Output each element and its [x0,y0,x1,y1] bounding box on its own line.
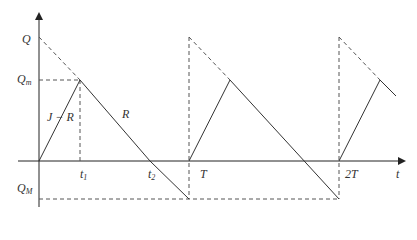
cycle2-rise [189,80,230,161]
qm-label: Qm [17,73,31,87]
q-label: Q [22,33,31,45]
fall-rate-label: R [122,108,129,120]
t2-label: t2 [148,168,155,182]
cycle3-fall-dashed [339,37,380,80]
qM-label: QM [17,182,32,196]
cycle2-fall-dashed [189,37,230,80]
rise-rate-label: J − R [47,111,74,123]
cycle3-fall-solid [380,80,396,96]
cycle1-fall-dashed [39,37,80,80]
cycle3-rise [339,80,380,161]
x-axis-label: t [396,168,399,180]
cycle1-fall-solid [80,80,150,161]
2T-label: 2T [345,168,358,180]
cycle2-fall-solid [230,80,339,199]
T-label: T [200,168,207,180]
t1-label: t1 [80,168,87,182]
cycle1-fall-below [150,161,189,199]
